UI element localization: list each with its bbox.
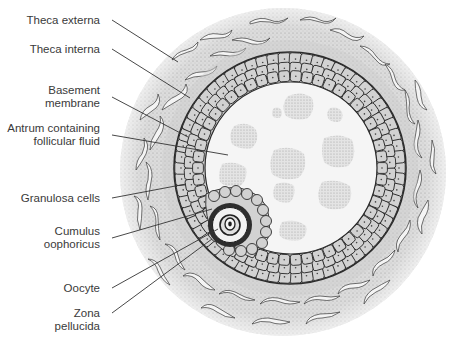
label-text: pellucida bbox=[55, 320, 100, 333]
oocyte-group bbox=[208, 203, 252, 247]
label-text: oophoricus bbox=[44, 238, 100, 251]
label-text: Theca externa bbox=[26, 14, 100, 26]
label-text: Zona bbox=[55, 307, 100, 320]
label-cumulus-oophoricus: Cumulus oophoricus bbox=[44, 225, 100, 251]
label-theca-externa: Theca externa bbox=[26, 14, 100, 27]
oocyte-nucleolus bbox=[228, 222, 232, 227]
label-text: follicular fluid bbox=[7, 135, 100, 148]
label-text: Antrum containing bbox=[7, 122, 100, 135]
label-text: Theca interna bbox=[30, 43, 100, 55]
label-basement-membrane: Basement membrane bbox=[45, 84, 100, 110]
label-zona-pellucida: Zona pellucida bbox=[55, 307, 100, 333]
label-theca-interna: Theca interna bbox=[30, 43, 100, 56]
label-granulosa-cells: Granulosa cells bbox=[21, 192, 100, 205]
label-antrum: Antrum containing follicular fluid bbox=[7, 122, 100, 148]
label-oocyte: Oocyte bbox=[64, 282, 100, 295]
label-text: membrane bbox=[45, 97, 100, 110]
label-text: Cumulus bbox=[44, 225, 100, 238]
label-text: Oocyte bbox=[64, 282, 100, 294]
label-text: Granulosa cells bbox=[21, 192, 100, 204]
label-text: Basement bbox=[45, 84, 100, 97]
